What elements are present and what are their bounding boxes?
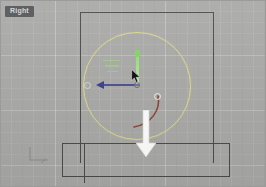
mouse-cursor-icon <box>131 69 141 84</box>
construction-line <box>59 10 60 162</box>
gizmo-x-axis-arrow-icon[interactable] <box>96 81 104 89</box>
geometry-bottom-box-divider <box>84 143 85 183</box>
application-window: Right <box>0 0 266 187</box>
viewport-right[interactable]: Right <box>0 0 266 187</box>
transform-gizmo[interactable] <box>94 52 162 110</box>
gizmo-x-axis[interactable] <box>99 84 139 86</box>
gizmo-z-axis-handle-icon[interactable] <box>154 93 161 100</box>
gizmo-y-axis-tip-icon[interactable] <box>135 50 140 57</box>
viewport-label[interactable]: Right <box>5 6 34 17</box>
gizmo-tick-marks-icon <box>103 60 121 76</box>
axis-tripod-icon <box>28 146 50 164</box>
gizmo-x-axis-endcap-icon[interactable] <box>84 82 91 89</box>
down-arrow-icon <box>134 110 158 158</box>
